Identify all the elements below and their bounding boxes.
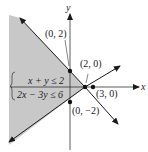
label-0-neg2: (0, −2) bbox=[72, 105, 99, 117]
label-3-0: (3, 0) bbox=[96, 88, 118, 100]
x-axis-label: x bbox=[140, 81, 146, 92]
graph-canvas: y x (0, 2) (2, 0) (3, 0) (0, −2) x + y ≤… bbox=[0, 0, 148, 152]
label-2-0: (2, 0) bbox=[80, 58, 102, 70]
inequality-2: 2x − 3y ≤ 6 bbox=[17, 89, 63, 100]
leader-0-2 bbox=[65, 40, 69, 66]
point-2-0 bbox=[83, 85, 87, 89]
point-0-neg2 bbox=[68, 100, 72, 104]
label-0-2: (0, 2) bbox=[45, 28, 67, 40]
line-2x-minus-3y-eq-6-upper bbox=[85, 66, 120, 87]
leader-2-0 bbox=[86, 74, 88, 83]
y-axis-label: y bbox=[65, 2, 71, 13]
inequality-1: x + y ≤ 2 bbox=[27, 75, 64, 86]
point-0-2 bbox=[68, 69, 72, 73]
point-3-0 bbox=[91, 85, 95, 89]
